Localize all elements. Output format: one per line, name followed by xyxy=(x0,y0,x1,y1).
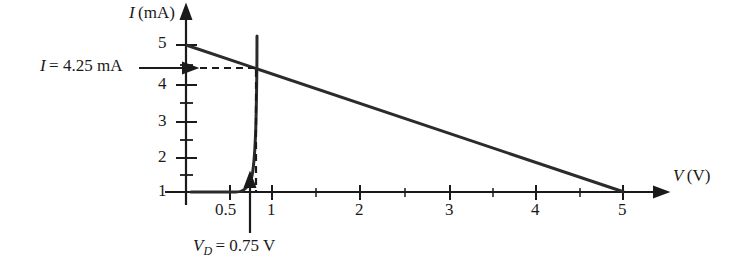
y-axis-title: I (mA) xyxy=(129,3,175,23)
y-tick-label-5: 5 xyxy=(158,33,167,53)
y-tick-label-3: 3 xyxy=(158,111,167,131)
current-annotation: I = 4.25 mA xyxy=(40,56,122,76)
x-axis-unit: (V) xyxy=(687,166,711,185)
x-tick-label-2: 2 xyxy=(355,200,364,220)
voltage-annotation: VD = 0.75 V xyxy=(193,236,275,259)
chart-canvas xyxy=(0,0,740,272)
y-tick-label-2: 2 xyxy=(158,147,167,167)
voltage-annotation-value: = 0.75 V xyxy=(215,236,275,255)
x-tick-label-0-5: 0.5 xyxy=(215,200,236,220)
diode-characteristic-curve xyxy=(191,36,257,192)
y-tick-label-4: 4 xyxy=(158,74,167,94)
x-tick-label-3: 3 xyxy=(445,200,454,220)
x-tick-label-5: 5 xyxy=(618,200,627,220)
x-tick-label-1: 1 xyxy=(267,200,276,220)
x-axis-symbol: V xyxy=(673,166,683,185)
current-annotation-value: = 4.25 mA xyxy=(49,56,122,75)
diode-load-line-figure: I (mA) V (V) 5 4 3 2 1 0.5 1 2 3 4 5 I =… xyxy=(0,0,740,272)
y-tick-label-1: 1 xyxy=(158,181,167,201)
voltage-annotation-subscript: D xyxy=(203,244,212,258)
y-axis-unit: (mA) xyxy=(138,3,175,22)
voltage-annotation-symbol: V xyxy=(193,236,203,255)
x-axis-title: V (V) xyxy=(673,166,710,186)
x-tick-label-4: 4 xyxy=(531,200,540,220)
